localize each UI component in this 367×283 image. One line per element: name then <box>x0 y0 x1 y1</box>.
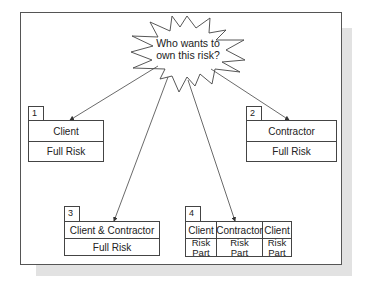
option-1-risk: Full Risk <box>29 142 103 161</box>
part-line: Part <box>231 248 248 258</box>
risk-line: Risk <box>268 238 286 248</box>
option-4-col-1-risk: Risk Part <box>186 239 217 256</box>
question-text: Who wants to own this risk? <box>147 37 229 61</box>
option-3-owner: Client & Contractor <box>65 222 159 239</box>
option-4-col-2-risk: Risk Part <box>217 239 263 256</box>
arrow-to-option-4 <box>188 80 235 221</box>
arrow-to-option-3 <box>114 77 168 221</box>
option-1-box: Client Full Risk <box>28 120 104 162</box>
option-3-risk: Full Risk <box>65 239 159 255</box>
option-3-box: Client & Contractor Full Risk <box>64 221 160 256</box>
risk-line: Risk <box>192 238 210 248</box>
option-4-number-tab: 4 <box>185 206 201 222</box>
question-line-2: own this risk? <box>147 49 229 61</box>
risk-line: Risk <box>230 238 248 248</box>
option-2-box: Contractor Full Risk <box>246 120 337 162</box>
option-1-owner: Client <box>29 121 103 142</box>
question-line-1: Who wants to <box>147 37 229 49</box>
option-2-owner: Contractor <box>247 121 336 142</box>
option-2-number-tab: 2 <box>246 106 262 121</box>
part-line: Part <box>268 248 285 258</box>
option-2-risk: Full Risk <box>247 142 336 161</box>
arrow-to-option-1 <box>70 66 158 120</box>
option-1-number-tab: 1 <box>28 106 44 121</box>
option-4-box: Client Contractor Client Risk Part Risk … <box>185 221 292 257</box>
option-3-number-tab: 3 <box>64 206 80 222</box>
part-line: Part <box>192 248 209 258</box>
option-4-col-3-risk: Risk Part <box>263 239 291 256</box>
